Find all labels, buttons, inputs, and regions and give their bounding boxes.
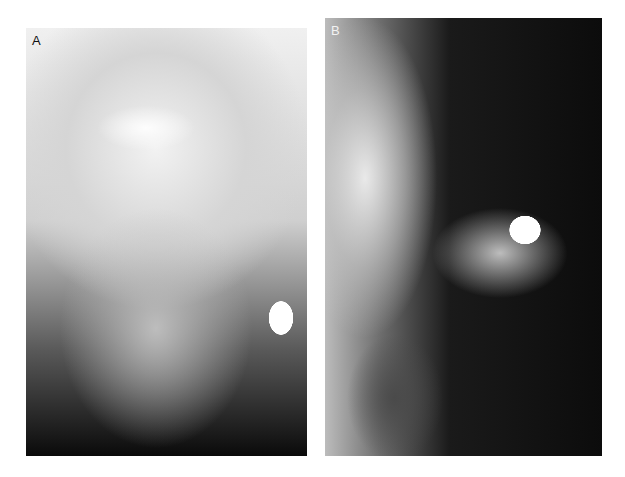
panel-label-b: B — [331, 24, 340, 37]
panel-label-a: A — [32, 34, 41, 47]
xray-panel-b: B — [325, 18, 602, 456]
xray-panel-a: A — [26, 28, 307, 456]
